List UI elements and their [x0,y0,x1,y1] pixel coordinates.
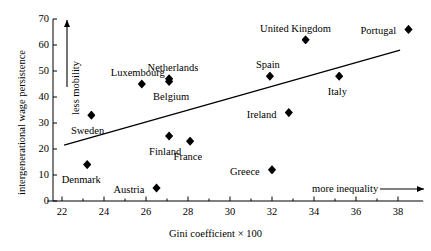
x-tick-label: 32 [252,207,292,218]
data-point-label: Netherlands [148,63,199,74]
tick-marks [53,19,398,201]
data-point-label: France [174,152,203,163]
x-tick-label: 34 [294,207,334,218]
y-axis-title: intergenerational wage persistence [16,50,27,195]
annotation-more-inequality: more inequality [312,183,378,194]
y-tick-label: 70 [39,14,50,25]
x-axis-title: Gini coefficient × 100 [0,228,431,239]
data-point-label: Austria [114,185,145,196]
x-tick-label: 22 [42,207,82,218]
x-tick-label: 24 [84,207,124,218]
scatter-chart-figure: 010203040506070 222426283032343638 inter… [0,0,431,251]
y-tick-label: 0 [44,196,49,207]
y-tick-label: 30 [39,118,50,129]
up-arrow-head [64,20,70,27]
data-point-label: Denmark [62,175,101,186]
data-point-label: United Kingdom [260,24,331,35]
x-tick-label: 38 [378,207,418,218]
trendline [64,50,400,145]
y-tick-label: 10 [39,170,50,181]
data-point-label: Sweden [71,126,104,137]
data-point-label: Belgium [153,92,189,103]
data-point-label: Greece [230,167,260,178]
annotation-less-mobility: less mobility [70,61,81,115]
y-tick-label: 40 [39,92,50,103]
y-tick-label: 50 [39,66,50,77]
data-point-label: Spain [256,60,280,71]
right-arrow-head [417,186,424,192]
y-tick-label: 20 [39,144,50,155]
x-tick-label: 36 [336,207,376,218]
data-point-label: Portugal [361,26,397,37]
plot-area: 010203040506070 222426283032343638 inter… [0,0,431,251]
x-tick-label: 26 [126,207,166,218]
data-point-label: Italy [328,87,347,98]
y-tick-label: 60 [39,40,50,51]
x-tick-label: 30 [210,207,250,218]
data-point-label: Ireland [247,110,277,121]
trend-line [64,50,400,145]
x-tick-label: 28 [168,207,208,218]
